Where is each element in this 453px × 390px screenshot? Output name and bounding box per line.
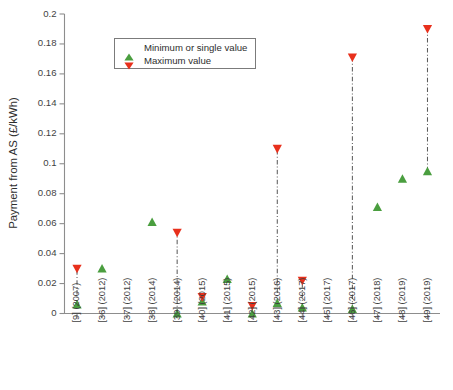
y-tick-label: 0.08 bbox=[38, 187, 57, 198]
y-tick-label: 0 bbox=[51, 307, 56, 318]
y-tick-label: 0.04 bbox=[38, 247, 57, 258]
y-tick-label: 0.16 bbox=[38, 67, 57, 78]
x-tick-label: [38] (2014) bbox=[147, 278, 157, 323]
y-tick-label: 0.1 bbox=[43, 157, 56, 168]
x-tick-label: [45] (2017) bbox=[322, 278, 332, 323]
x-tick-label: [41] (2015) bbox=[222, 278, 232, 323]
x-tick-label: [42] (2015) bbox=[247, 278, 257, 323]
x-tick-label: [49] (2019) bbox=[422, 278, 432, 323]
x-tick-label: [9] (2007) bbox=[71, 283, 81, 323]
x-tick-label: [46] (2017) bbox=[347, 278, 357, 323]
x-tick-label: [48] (2019) bbox=[397, 278, 407, 323]
x-tick-label: [36] (2012) bbox=[97, 278, 107, 323]
y-tick-label: 0.14 bbox=[38, 97, 57, 108]
y-tick-label: 0.06 bbox=[38, 217, 57, 228]
y-tick-label: 0.12 bbox=[38, 127, 57, 138]
chart-figure: 00.020.040.060.080.10.120.140.160.180.2 … bbox=[0, 0, 453, 390]
legend-label-minimum: Minimum or single value bbox=[144, 42, 247, 53]
x-tick-label: [44] (2017) bbox=[297, 278, 307, 323]
y-tick-label: 0.2 bbox=[43, 8, 56, 19]
y-tick-label: 0.18 bbox=[38, 37, 57, 48]
x-tick-label: [39] (2014) bbox=[172, 278, 182, 323]
payment-from-as-scatter-chart: 00.020.040.060.080.10.120.140.160.180.2 … bbox=[0, 0, 453, 390]
chart-legend: Minimum or single value Maximum value bbox=[115, 39, 256, 70]
y-tick-label: 0.02 bbox=[38, 277, 57, 288]
x-tick-label: [40] (2015) bbox=[197, 278, 207, 323]
legend-label-maximum: Maximum value bbox=[144, 55, 211, 66]
y-axis-title: Payment from AS (£/kWh) bbox=[7, 97, 19, 229]
y-axis-title-group: Payment from AS (£/kWh) bbox=[7, 97, 19, 229]
x-tick-label: [37] (2012) bbox=[122, 278, 132, 323]
x-axis-tick-labels: [9] (2007)[36] (2012)[37] (2012)[38] (20… bbox=[71, 278, 431, 323]
x-tick-label: [43] (2016) bbox=[272, 278, 282, 323]
x-tick-label: [47] (2018) bbox=[372, 278, 382, 323]
